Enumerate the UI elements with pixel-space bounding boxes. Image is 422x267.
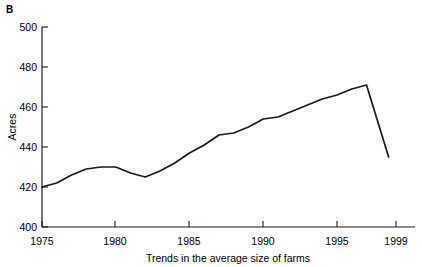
x-axis-tick-labels: 1975 1980 1985 1990 1995 1999	[30, 235, 408, 247]
y-tick-label: 500	[19, 21, 37, 33]
data-series-line	[42, 85, 389, 187]
y-tick-label: 460	[19, 101, 37, 113]
y-axis-ticks	[42, 27, 48, 227]
y-tick-label: 440	[19, 141, 37, 153]
x-axis-ticks	[42, 221, 396, 227]
line-chart: 500 480 460 440 420 400 1975 1980 1985 1…	[0, 0, 422, 267]
x-tick-label: 1975	[30, 235, 54, 247]
y-tick-label: 480	[19, 61, 37, 73]
y-tick-label: 400	[19, 221, 37, 233]
y-axis-tick-labels: 500 480 460 440 420 400	[19, 21, 37, 233]
y-axis-title: Acres	[6, 114, 18, 141]
x-tick-label: 1995	[325, 235, 349, 247]
figure-panel-b: B 500 480 460 440 420 400	[0, 0, 422, 267]
x-tick-label: 1999	[384, 235, 408, 247]
x-tick-label: 1980	[103, 235, 127, 247]
x-tick-label: 1990	[251, 235, 275, 247]
x-tick-label: 1985	[177, 235, 201, 247]
x-axis-title: Trends in the average size of farms	[146, 252, 310, 264]
y-tick-label: 420	[19, 181, 37, 193]
